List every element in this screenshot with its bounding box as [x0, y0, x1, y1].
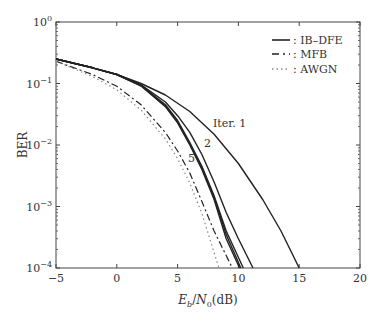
legend: : IB–DFE: MFB: AWGN	[272, 34, 343, 76]
x-tick-label: 20	[353, 272, 367, 285]
x-tick-label: 0	[113, 272, 120, 285]
series-ib-dfe-iter-1	[56, 59, 299, 268]
y-tick-label: 10−2	[26, 137, 52, 152]
legend-label: : IB–DFE	[293, 34, 343, 47]
x-axis-label: Eb/N0(dB)	[177, 293, 237, 309]
annotation-iter-5: 5	[188, 152, 195, 165]
y-tick-label: 10−1	[26, 76, 52, 91]
ber-chart: −50510152010010−110−210−310−4Eb/N0(dB)BE…	[0, 0, 384, 317]
x-tick-label: 10	[231, 272, 245, 285]
y-tick-label: 100	[33, 14, 52, 29]
x-tick-label: 15	[292, 272, 306, 285]
legend-label: : AWGN	[293, 63, 338, 76]
x-tick-label: −5	[48, 272, 64, 285]
x-tick-label: 5	[174, 272, 181, 285]
annotation-iter-1: Iter. 1	[213, 117, 246, 130]
legend-label: : MFB	[293, 48, 327, 61]
annotation-iter-2: 2	[204, 137, 211, 150]
plot-curves	[56, 59, 299, 268]
y-tick-label: 10−3	[26, 199, 52, 214]
y-axis-label: BER	[16, 131, 30, 159]
